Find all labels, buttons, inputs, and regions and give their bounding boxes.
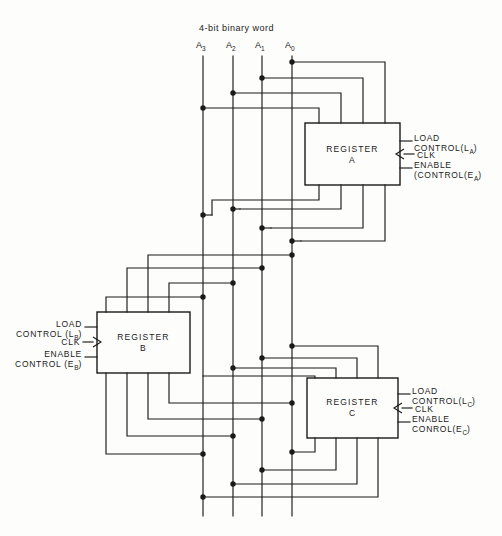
junction-dots (200, 59, 294, 499)
bus-tap-a1-to-reg-b (127, 268, 262, 312)
bus-tap-a3-to-reg-a (203, 108, 319, 123)
register-a-enable-label: ENABLE(CONTROL(EA) (414, 160, 482, 184)
reg-a-out-2 (271, 185, 363, 228)
reg-c-out-0 (292, 438, 315, 452)
bus-label-a2: A2 (226, 40, 236, 52)
reg-a-out-0 (212, 185, 319, 215)
register-c-name: REGISTERC (307, 397, 398, 419)
reg-b-out-3 (169, 373, 292, 403)
reg-c-out-3 (203, 438, 378, 497)
reg-a-out-3 (301, 185, 385, 241)
bus-tap-a3-to-reg-c (203, 376, 315, 378)
bus-label-a0: A0 (285, 40, 295, 52)
bus-tap-a1-to-reg-a (262, 78, 363, 123)
bus-tap-a0-to-reg-c (292, 346, 378, 378)
reg-b-out-1 (127, 373, 233, 436)
reg-a-out-1 (240, 185, 341, 209)
wiring-layer (0, 0, 502, 536)
register-b-enable-label: ENABLECONTROL (EB) (0, 349, 82, 373)
bus-label-a3: A3 (196, 40, 206, 52)
bus-tap-a3-to-reg-b (106, 297, 203, 312)
reg-c-out-2 (233, 438, 357, 484)
register-b-clk-label: CLK (0, 337, 80, 347)
bus-label-a1: A1 (255, 40, 265, 52)
register-bus-diagram: 4-bit binary word A3 A2 A1 A0 REGISTERA … (0, 0, 502, 536)
register-c-clk-label: CLK (415, 404, 434, 414)
register-a-name: REGISTERA (305, 144, 400, 166)
register-a-clk-label: CLK (417, 150, 436, 160)
register-b-name: REGISTERB (97, 332, 190, 354)
reg-b-out-2 (148, 373, 262, 419)
register-c-enable-label: ENABLECONROL(EC) (412, 414, 471, 438)
reg-c-out-1 (262, 438, 336, 470)
diagram-title: 4-bit binary word (199, 23, 274, 33)
reg-b-out-0 (106, 373, 203, 454)
